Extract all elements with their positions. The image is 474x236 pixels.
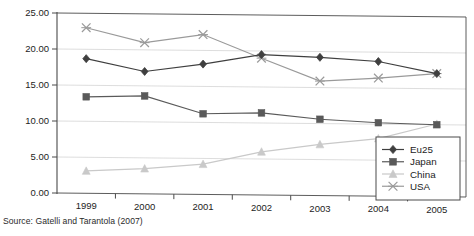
marker-cross [81, 23, 91, 32]
marker-cross [198, 30, 208, 39]
marker-square [200, 110, 207, 117]
x-tick-label: 2000 [134, 201, 155, 212]
marker-square [258, 110, 265, 117]
marker-square [83, 94, 90, 101]
y-axis: 0.005.0010.0015.0020.0025.00 [25, 7, 57, 198]
x-tick-label: 1999 [76, 200, 97, 211]
source-note: Source: Gatelli and Tarantola (2007) [3, 216, 143, 226]
chart-figure: 0.005.0010.0015.0020.0025.00199920002001… [0, 0, 474, 236]
x-tick-label: 2003 [309, 203, 330, 214]
line-chart: 0.005.0010.0015.0020.0025.00199920002001… [0, 0, 474, 236]
legend: Eu25JapanChinaUSA [376, 137, 460, 200]
y-tick-label: 5.00 [31, 151, 50, 162]
y-tick-label: 15.00 [25, 79, 49, 90]
legend-label: Eu25 [410, 144, 433, 155]
legend-label: USA [410, 181, 431, 192]
legend-label: China [410, 169, 436, 180]
marker-cross [315, 77, 325, 86]
legend-label: Japan [410, 156, 437, 167]
marker-square [433, 121, 440, 128]
x-tick-label: 2001 [193, 201, 214, 212]
gridline [57, 121, 466, 125]
marker-square [317, 116, 324, 123]
marker-diamond [141, 67, 148, 75]
marker-cross [373, 74, 383, 83]
marker-diamond [317, 53, 324, 61]
y-tick-label: 10.00 [25, 115, 49, 126]
x-tick-label: 2004 [368, 203, 389, 214]
marker-diamond [200, 60, 207, 68]
y-tick-label: 20.00 [25, 43, 49, 54]
y-tick-label: 25.00 [25, 7, 49, 18]
gridline [57, 85, 466, 89]
x-tick-label: 2005 [426, 204, 447, 215]
marker-square [390, 158, 397, 165]
marker-square [141, 93, 148, 100]
marker-diamond [83, 55, 90, 63]
marker-diamond [375, 58, 382, 66]
series-eu25 [83, 51, 440, 78]
gridline [57, 13, 466, 17]
marker-cross [140, 38, 150, 47]
y-tick-label: 0.00 [31, 187, 50, 198]
marker-square [375, 119, 382, 126]
x-tick-label: 2002 [251, 202, 272, 213]
